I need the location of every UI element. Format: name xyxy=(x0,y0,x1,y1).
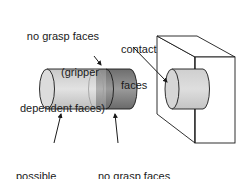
label-possible-grasp-faces: possible grasp faces xyxy=(16,146,73,179)
label-line: no grasp faces xyxy=(98,170,170,179)
grasp-faces-diagram: no grasp faces (gripper dependent faces)… xyxy=(0,0,248,179)
label-line: dependent faces) xyxy=(20,102,99,114)
label-line: (gripper xyxy=(20,66,99,78)
label-line: faces xyxy=(121,79,156,91)
label-contact-faces-bottom: no grasp faces (contact faces) xyxy=(98,146,170,179)
label-contact-faces-top: contact faces xyxy=(121,19,156,115)
arrow-contact-bottom xyxy=(115,114,118,143)
contact-box xyxy=(157,36,235,143)
label-line: possible xyxy=(16,170,73,179)
label-line: no grasp faces xyxy=(20,30,99,42)
label-line: contact xyxy=(121,43,156,55)
label-gripper-dependent-faces: no grasp faces (gripper dependent faces) xyxy=(20,6,99,138)
